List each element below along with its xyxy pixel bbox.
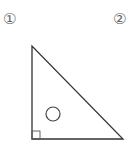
right-triangle — [32, 46, 123, 139]
triangle-diagram — [0, 0, 138, 153]
circle-marker-icon — [46, 107, 60, 121]
right-angle-marker — [32, 131, 40, 139]
